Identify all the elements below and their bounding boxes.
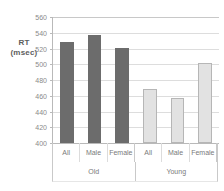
y-tick-label-520: 520 [3,45,47,52]
bar-series [53,17,219,143]
y-tick-label-480: 480 [3,77,47,84]
category-label-male-1: Male [80,143,107,162]
category-label-all-0: All [53,143,80,162]
plot-area: 560540520500480460440420400 [52,17,218,143]
y-tick-label-400: 400 [3,140,47,147]
bar-young-male[interactable] [171,98,185,143]
category-label-all-3: All [135,143,162,162]
bar-slot [136,17,164,143]
bar-old-female[interactable] [115,48,129,143]
bar-slot [81,17,109,143]
group-label-old: Old [53,162,136,181]
bar-slot [108,17,136,143]
group-label-young: Young [136,162,218,181]
bar-young-female[interactable] [198,63,212,143]
bar-slot [164,17,192,143]
y-tick-label-460: 460 [3,92,47,99]
category-label-female-2: Female [108,143,135,162]
figure-caption [0,183,224,191]
bar-old-all[interactable] [60,42,74,143]
category-label-male-4: Male [162,143,189,162]
y-tick-label-540: 540 [3,29,47,36]
y-tick-label-440: 440 [3,108,47,115]
y-tick-label-560: 560 [3,14,47,21]
bar-slot [191,17,219,143]
bar-young-all[interactable] [143,89,157,143]
bar-slot [53,17,81,143]
category-axis: AllMaleFemaleAllMaleFemale [52,143,218,162]
category-label-female-5: Female [190,143,217,162]
y-tick-label-500: 500 [3,61,47,68]
y-tick-label-420: 420 [3,124,47,131]
group-axis: OldYoung [52,162,218,182]
bar-old-male[interactable] [88,35,102,143]
bar-chart: RT (msec) 560540520500480460440420400 Al… [0,0,224,191]
